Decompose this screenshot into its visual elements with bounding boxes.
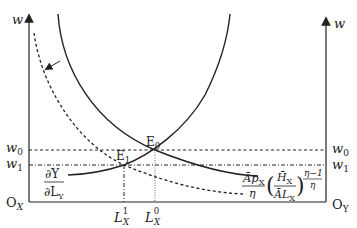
shifted-labor-demand-curve [34, 33, 243, 194]
E0-label: E0 [146, 135, 160, 151]
E1-label: E1 [116, 149, 130, 165]
labor-market-diagram: w w OX OY w0 w1 w0 w1 E0 E1 L1X L0X ∂Y ∂… [0, 0, 357, 228]
w0-label-right: w0 [332, 141, 349, 158]
labor-demand-formula-label: ĀpX η ( H̄X ĀLX ) η−1 η [242, 168, 323, 203]
w0-label-left: w0 [6, 140, 23, 157]
right-axis-label: w [334, 16, 345, 31]
L0-label: L0X [144, 206, 161, 227]
svg-text:η: η [310, 180, 316, 190]
left-axis-label: w [12, 12, 23, 27]
L1-label: L1X [113, 206, 130, 227]
svg-text:∂Y: ∂Y [45, 167, 60, 181]
marginal-product-label: ∂Y ∂LY [44, 167, 64, 201]
svg-text:η: η [249, 187, 256, 200]
w1-label-right: w1 [332, 157, 349, 174]
svg-text:∂LY: ∂LY [44, 185, 64, 201]
labor-demand-curve [58, 14, 258, 176]
svg-text:η−1: η−1 [304, 168, 323, 178]
marginal-product-curve [68, 14, 230, 175]
svg-text:ĀLX: ĀLX [273, 188, 295, 203]
left-origin-label: OX [6, 195, 24, 212]
w1-label-left: w1 [6, 156, 23, 173]
right-origin-label: OY [332, 197, 350, 214]
svg-text:ĀpX: ĀpX [242, 171, 265, 187]
shift-arrow-icon [48, 61, 60, 68]
svg-text:H̄X: H̄X [276, 171, 293, 186]
